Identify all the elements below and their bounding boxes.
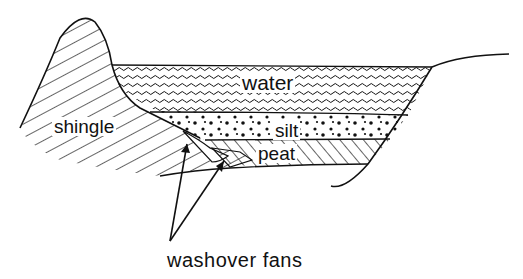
shingle-label: shingle [52,117,116,136]
water-label: water [240,72,295,93]
washover-fans-label: washover fans [167,250,302,270]
cross-section-diagram: water shingle silt peat washover fans [0,0,523,279]
peat-label: peat [256,144,297,163]
diagram-canvas [0,0,523,279]
silt-label: silt [273,121,300,140]
